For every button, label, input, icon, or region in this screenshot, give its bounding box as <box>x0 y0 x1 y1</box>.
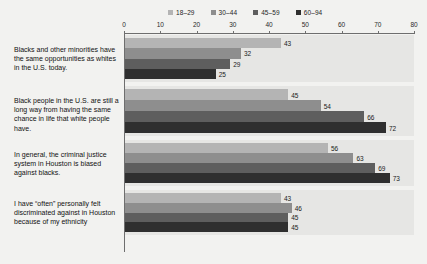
bar-value-label: 54 <box>321 102 331 109</box>
x-tick-label: 70 <box>374 21 381 28</box>
legend-item-18-29[interactable]: 18–29 <box>168 9 195 16</box>
bar-row: 73 <box>125 173 415 183</box>
bar-group: 56636973 <box>124 140 414 186</box>
x-tick-label: 10 <box>157 21 164 28</box>
x-tick-label: 50 <box>302 21 309 28</box>
x-tick-label: 0 <box>122 21 126 28</box>
bar[interactable] <box>125 111 364 122</box>
chart-legend: 18–29 30–44 45–59 60–94 <box>168 9 322 16</box>
bar[interactable] <box>125 163 375 173</box>
bar-value-label: 25 <box>216 70 226 77</box>
bar-value-label: 72 <box>386 124 396 131</box>
bar-row: 43 <box>125 193 415 203</box>
bar[interactable] <box>125 100 321 111</box>
bar-value-label: 43 <box>281 40 291 47</box>
bar-row: 43 <box>125 38 415 48</box>
bar[interactable] <box>125 38 281 48</box>
bar-value-label: 46 <box>292 204 302 211</box>
legend-swatch-icon <box>253 10 258 15</box>
legend-item-30-44[interactable]: 30–44 <box>211 9 238 16</box>
bar-value-label: 45 <box>288 224 298 231</box>
bar-value-label: 69 <box>375 165 385 172</box>
bar-row: 32 <box>125 48 415 58</box>
bar-row: 25 <box>125 69 415 79</box>
bar[interactable] <box>125 48 241 58</box>
plot-area: 01020304050607080 4332292545546672566369… <box>124 33 414 252</box>
bar[interactable] <box>125 203 292 213</box>
legend-swatch-icon <box>168 10 173 15</box>
bar[interactable] <box>125 122 386 133</box>
bar-value-label: 43 <box>281 194 291 201</box>
x-tick-mark <box>414 31 415 34</box>
legend-label: 30–44 <box>219 9 238 16</box>
bar-row: 69 <box>125 163 415 173</box>
legend-label: 18–29 <box>176 9 195 16</box>
category-label-1: Black people in the U.S. are still a lon… <box>14 96 120 133</box>
bar-row: 56 <box>125 143 415 153</box>
bar-row: 46 <box>125 203 415 213</box>
bar[interactable] <box>125 173 390 183</box>
bar-group: 45546672 <box>124 86 414 136</box>
legend-label: 45–59 <box>261 9 280 16</box>
bar-row: 72 <box>125 122 415 133</box>
legend-swatch-icon <box>296 10 301 15</box>
bar-row: 29 <box>125 59 415 69</box>
bar-row: 45 <box>125 222 415 232</box>
bar-group: 43322925 <box>124 35 414 82</box>
bar[interactable] <box>125 153 353 163</box>
x-tick-label: 30 <box>229 21 236 28</box>
legend-label: 60–94 <box>304 9 323 16</box>
x-axis-line <box>124 33 414 34</box>
bar-row: 66 <box>125 111 415 122</box>
category-label-3: I have “often” personally felt discrimin… <box>14 199 120 227</box>
bar[interactable] <box>125 89 288 100</box>
bar[interactable] <box>125 143 328 153</box>
x-tick-label: 40 <box>265 21 272 28</box>
bar[interactable] <box>125 69 216 79</box>
bar-row: 45 <box>125 213 415 223</box>
bar-value-label: 45 <box>288 214 298 221</box>
category-label-2: In general, the criminal justice system … <box>14 150 120 178</box>
bar[interactable] <box>125 193 281 203</box>
bar[interactable] <box>125 59 230 69</box>
category-label-0: Blacks and other minorities have the sam… <box>14 45 120 73</box>
bar-group: 43464545 <box>124 190 414 235</box>
bar[interactable] <box>125 213 288 223</box>
x-tick-label: 80 <box>410 21 417 28</box>
bar-value-label: 66 <box>364 113 374 120</box>
bar-value-label: 56 <box>328 145 338 152</box>
bar-value-label: 73 <box>390 175 400 182</box>
legend-swatch-icon <box>211 10 216 15</box>
bar-row: 45 <box>125 89 415 100</box>
legend-item-60-94[interactable]: 60–94 <box>296 9 323 16</box>
bar-row: 54 <box>125 100 415 111</box>
legend-item-45-59[interactable]: 45–59 <box>253 9 280 16</box>
bar-value-label: 32 <box>241 50 251 57</box>
x-axis-tick-labels: 01020304050607080 <box>124 21 414 31</box>
bar-value-label: 29 <box>230 60 240 67</box>
x-tick-label: 60 <box>338 21 345 28</box>
x-tick-label: 20 <box>193 21 200 28</box>
grouped-bar-chart: 18–29 30–44 45–59 60–94 Blacks and other… <box>0 0 427 264</box>
bar-value-label: 45 <box>288 91 298 98</box>
bar-row: 63 <box>125 153 415 163</box>
bar[interactable] <box>125 222 288 232</box>
bar-value-label: 63 <box>353 155 363 162</box>
